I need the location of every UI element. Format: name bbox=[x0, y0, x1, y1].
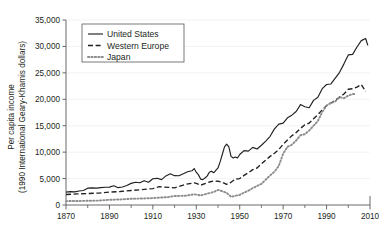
x-axis: 18701890191019301950197019902010 bbox=[57, 205, 380, 221]
y-axis-title: Per capita income (1990 International Ge… bbox=[7, 41, 27, 193]
x-axis-tick-label: 1930 bbox=[187, 212, 206, 221]
x-axis-tick-label: 1950 bbox=[231, 212, 250, 221]
data-series-group bbox=[66, 39, 368, 202]
series-line-western-europe bbox=[66, 84, 366, 194]
legend-label-japan: Japan bbox=[107, 52, 131, 62]
x-axis-tick-label: 1910 bbox=[144, 212, 163, 221]
x-axis-tick-label: 1990 bbox=[317, 212, 336, 221]
legend-label-united-states: United States bbox=[107, 29, 159, 39]
y-axis-tick-label: 0 bbox=[55, 201, 60, 210]
y-axis-tick-label: 20,000 bbox=[35, 95, 60, 104]
y-axis-tick-label: 15,000 bbox=[35, 122, 60, 131]
x-axis-tick-label: 2010 bbox=[361, 212, 380, 221]
y-axis-tick-label: 10,000 bbox=[35, 148, 60, 157]
x-axis-tick-label: 1970 bbox=[274, 212, 293, 221]
y-axis-tick-label: 30,000 bbox=[35, 42, 60, 51]
y-axis-title-line1: Per capita income bbox=[7, 84, 16, 150]
y-axis-title-line2: (1990 International Geary-Khamis dollars… bbox=[18, 41, 27, 193]
chart-legend: United StatesWestern EuropeJapan bbox=[82, 24, 184, 62]
y-axis-tick-label: 5,000 bbox=[40, 175, 61, 184]
x-axis-tick-label: 1870 bbox=[57, 212, 76, 221]
chart-container: Per capita income (1990 International Ge… bbox=[0, 0, 381, 234]
series-line-japan bbox=[66, 94, 355, 201]
y-axis: 05,00010,00015,00020,00025,00030,00035,0… bbox=[35, 16, 66, 210]
x-axis-tick-label: 1890 bbox=[100, 212, 119, 221]
line-chart: Per capita income (1990 International Ge… bbox=[0, 0, 381, 234]
y-axis-tick-label: 25,000 bbox=[35, 69, 60, 78]
y-axis-tick-label: 35,000 bbox=[35, 16, 60, 25]
legend-label-western-europe: Western Europe bbox=[107, 41, 169, 51]
